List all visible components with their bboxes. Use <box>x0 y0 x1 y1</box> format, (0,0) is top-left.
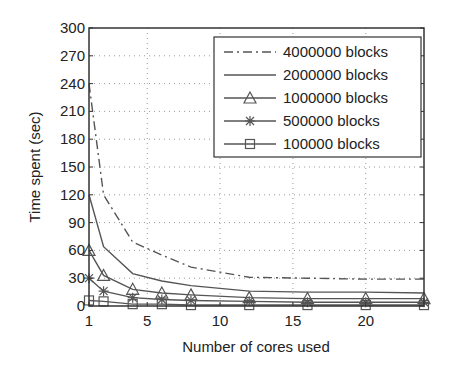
legend-label: 1000000 blocks <box>283 89 388 106</box>
y-tick-label: 120 <box>60 186 85 203</box>
x-tick-label: 5 <box>143 312 151 329</box>
y-tick-label: 210 <box>60 102 85 119</box>
y-tick-label: 150 <box>60 158 85 175</box>
legend-label: 2000000 blocks <box>283 66 388 83</box>
y-axis-label: Time spent (sec) <box>26 111 43 222</box>
legend: 4000000 blocks2000000 blocks1000000 bloc… <box>214 37 421 157</box>
x-tick-label: 10 <box>212 312 229 329</box>
x-tick-label: 20 <box>357 312 374 329</box>
legend-label: 500000 blocks <box>283 112 380 129</box>
y-tick-label: 90 <box>68 214 85 231</box>
y-tick-label: 60 <box>68 241 85 258</box>
x-axis-label: Number of cores used <box>182 338 330 355</box>
y-tick-label: 180 <box>60 130 85 147</box>
y-tick-label: 300 <box>60 19 85 36</box>
y-tick-label: 0 <box>77 297 85 314</box>
x-tick-label: 1 <box>85 312 93 329</box>
y-tick-label: 30 <box>68 269 85 286</box>
legend-label: 100000 blocks <box>283 135 380 152</box>
y-tick-label: 270 <box>60 47 85 64</box>
line-chart: 030609012015018021024027030015101520 Num… <box>0 0 449 379</box>
legend-label: 4000000 blocks <box>283 43 388 60</box>
x-tick-label: 15 <box>285 312 302 329</box>
y-tick-label: 240 <box>60 75 85 92</box>
